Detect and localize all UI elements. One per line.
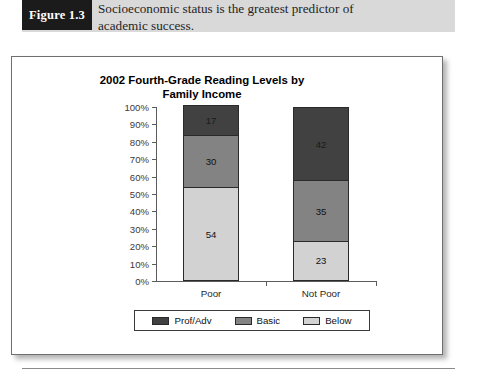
- y-axis-tick-label: 70%: [130, 154, 149, 165]
- y-axis-tick-label: 30%: [130, 223, 149, 234]
- figure-caption: Socioeconomic status is the greatest pre…: [98, 1, 428, 34]
- y-axis-tick: [152, 142, 156, 143]
- legend-item[interactable]: Prof/Adv: [152, 315, 211, 326]
- chart-title-line-1: 2002 Fourth-Grade Reading Levels by: [42, 73, 362, 87]
- bar-segment[interactable]: 30: [183, 135, 239, 187]
- y-axis-tick: [152, 159, 156, 160]
- legend-label: Prof/Adv: [174, 315, 211, 326]
- bar-poor[interactable]: 173054: [183, 105, 239, 281]
- figure-number-badge: Figure 1.3: [22, 0, 92, 30]
- chart: 2002 Fourth-Grade Reading Levels by Fami…: [12, 57, 392, 356]
- x-axis-category-label: Not Poor: [302, 288, 341, 299]
- legend-swatch-icon: [152, 317, 169, 325]
- y-axis-tick: [152, 124, 156, 125]
- legend-item[interactable]: Basic: [235, 315, 281, 326]
- bar-segment-value: 23: [316, 255, 327, 266]
- plot-area: 0%10%20%30%40%50%60%70%80%90%100% 173054…: [156, 107, 376, 281]
- y-axis-tick: [152, 177, 156, 178]
- legend-item[interactable]: Below: [303, 315, 351, 326]
- chart-legend: Prof/AdvBasicBelow: [134, 310, 370, 331]
- x-axis-tick: [376, 281, 377, 286]
- figure-number-text: Figure 1.3: [29, 8, 85, 23]
- bar-segment[interactable]: 42: [293, 107, 349, 180]
- y-axis-tick-label: 20%: [130, 241, 149, 252]
- bar-segment-value: 54: [206, 229, 217, 240]
- y-axis-tick-label: 90%: [130, 119, 149, 130]
- x-axis-tick: [266, 281, 267, 286]
- bar-segment[interactable]: 17: [183, 105, 239, 135]
- bar-segment-value: 30: [206, 156, 217, 167]
- y-axis-tick-label: 50%: [130, 189, 149, 200]
- chart-title: 2002 Fourth-Grade Reading Levels by Fami…: [42, 73, 362, 101]
- y-axis-tick-label: 10%: [130, 258, 149, 269]
- bar-segment-value: 17: [206, 115, 217, 126]
- legend-swatch-icon: [303, 317, 320, 325]
- y-axis-tick: [152, 211, 156, 212]
- bar-not-poor[interactable]: 423523: [293, 107, 349, 281]
- figure-panel: 2002 Fourth-Grade Reading Levels by Fami…: [11, 56, 443, 355]
- y-axis-tick-label: 40%: [130, 206, 149, 217]
- figure-caption-line-1: Socioeconomic status is the greatest pre…: [98, 1, 428, 18]
- y-axis-tick: [152, 229, 156, 230]
- y-axis-tick-label: 80%: [130, 136, 149, 147]
- x-axis-category-label: Poor: [201, 288, 222, 299]
- figure-caption-line-2: academic success.: [98, 18, 428, 35]
- bar-segment[interactable]: 54: [183, 187, 239, 281]
- y-axis-tick-label: 100%: [124, 102, 149, 113]
- bar-segment-value: 35: [316, 206, 327, 217]
- legend-swatch-icon: [235, 317, 252, 325]
- chart-title-line-2: Family Income: [42, 87, 362, 101]
- bar-segment[interactable]: 23: [293, 241, 349, 281]
- y-axis-tick: [152, 246, 156, 247]
- y-axis-tick: [152, 264, 156, 265]
- legend-label: Below: [325, 315, 351, 326]
- bar-segment-value: 42: [316, 139, 327, 150]
- y-axis-tick: [152, 281, 156, 282]
- y-axis-tick: [152, 194, 156, 195]
- y-axis-tick-label: 60%: [130, 171, 149, 182]
- y-axis-tick: [152, 107, 156, 108]
- y-axis-tick-label: 0%: [135, 276, 149, 287]
- page-bottom-rule: [22, 368, 455, 369]
- y-axis-line: [156, 107, 157, 281]
- bar-segment[interactable]: 35: [293, 180, 349, 241]
- legend-label: Basic: [257, 315, 281, 326]
